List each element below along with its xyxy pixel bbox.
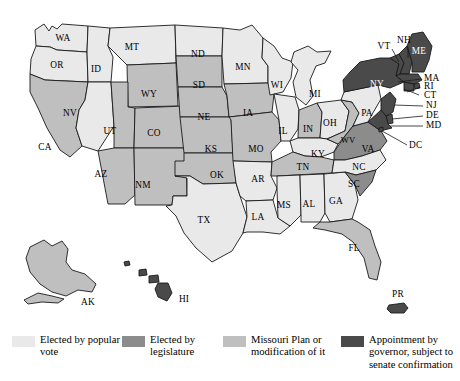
label-MN: MN xyxy=(235,62,250,72)
label-AR: AR xyxy=(251,174,265,184)
label-WI: WI xyxy=(271,80,283,90)
label-IA: IA xyxy=(243,108,253,118)
state-CO[interactable] xyxy=(134,106,186,148)
label-SD: SD xyxy=(193,80,205,90)
label-AZ: AZ xyxy=(95,169,108,179)
legend-label-popular-vote: Elected by popular vote xyxy=(40,334,120,359)
label-OH: OH xyxy=(323,118,337,128)
label-CA: CA xyxy=(38,142,51,152)
label-TN: TN xyxy=(297,162,310,172)
state-FL[interactable] xyxy=(313,219,381,280)
legend-item-legislature[interactable]: Elected by legislature xyxy=(122,334,220,359)
label-KS: KS xyxy=(205,144,217,154)
legend-swatch-missouri-plan xyxy=(223,336,246,347)
legend-label-governor-appointment: Appointment by governor, subject to sena… xyxy=(369,334,457,371)
label-NH: NH xyxy=(397,35,411,45)
label-DE: DE xyxy=(426,110,439,120)
label-MD: MD xyxy=(426,120,441,130)
state-HI-2[interactable] xyxy=(139,269,147,276)
label-MO: MO xyxy=(248,144,263,154)
legend-swatch-popular-vote xyxy=(12,336,35,347)
label-ID: ID xyxy=(91,64,101,74)
label-NY: NY xyxy=(370,79,384,89)
state-HI-4[interactable] xyxy=(155,283,172,301)
label-VT: VT xyxy=(378,41,391,51)
label-GA: GA xyxy=(329,196,343,206)
label-KY: KY xyxy=(311,149,325,159)
label-FL: FL xyxy=(348,243,359,253)
label-CO: CO xyxy=(147,128,160,138)
legend-item-popular-vote[interactable]: Elected by popular vote xyxy=(12,334,120,359)
label-WA: WA xyxy=(56,33,71,43)
state-AK[interactable] xyxy=(26,240,96,296)
label-CT: CT xyxy=(424,90,436,100)
label-ND: ND xyxy=(191,49,205,59)
state-PR[interactable] xyxy=(387,303,408,313)
label-TX: TX xyxy=(198,215,211,225)
label-HI: HI xyxy=(179,294,189,304)
legend-item-missouri-plan[interactable]: Missouri Plan or modification of it xyxy=(223,334,339,359)
label-MS: MS xyxy=(277,200,291,210)
state-MO[interactable] xyxy=(229,112,281,162)
state-MT[interactable] xyxy=(108,25,176,65)
label-WV: WV xyxy=(341,135,356,145)
label-UT: UT xyxy=(104,126,117,136)
state-HI-3[interactable] xyxy=(149,275,159,283)
label-MI: MI xyxy=(309,89,321,99)
legend-label-legislature: Elected by legislature xyxy=(150,334,220,359)
label-AK: AK xyxy=(81,297,95,307)
label-IN: IN xyxy=(303,124,313,134)
label-NC: NC xyxy=(352,162,365,172)
state-HI-1[interactable] xyxy=(124,261,130,266)
label-MT: MT xyxy=(125,42,139,52)
label-AL: AL xyxy=(303,199,316,209)
label-SC: SC xyxy=(348,179,360,189)
label-IL: IL xyxy=(278,126,287,136)
us-map-svg: WA OR ID MT ND MN WI MI NV CA UT WY CO S… xyxy=(0,0,460,330)
leader-DE xyxy=(392,116,423,119)
judicial-selection-map-figure: WA OR ID MT ND MN WI MI NV CA UT WY CO S… xyxy=(0,0,460,381)
state-MN[interactable] xyxy=(222,25,268,84)
state-AK-tail[interactable] xyxy=(24,293,64,304)
map-legend: Elected by popular vote Elected by legis… xyxy=(0,330,460,381)
label-PR: PR xyxy=(392,289,404,299)
label-OR: OR xyxy=(50,60,64,70)
legend-label-missouri-plan: Missouri Plan or modification of it xyxy=(251,334,339,359)
label-VA: VA xyxy=(362,144,375,154)
label-LA: LA xyxy=(252,212,265,222)
legend-swatch-legislature xyxy=(122,336,145,347)
label-PA: PA xyxy=(361,108,373,118)
legend-item-governor-appointment[interactable]: Appointment by governor, subject to sena… xyxy=(341,334,457,371)
label-WY: WY xyxy=(141,89,157,99)
label-NV: NV xyxy=(63,108,77,118)
legend-swatch-governor-appointment xyxy=(341,336,364,347)
label-DC: DC xyxy=(409,140,422,150)
label-ME: ME xyxy=(412,46,426,56)
leader-NJ xyxy=(394,105,423,106)
state-AL[interactable] xyxy=(300,174,325,222)
state-WY[interactable] xyxy=(127,63,178,107)
label-NE: NE xyxy=(198,112,211,122)
label-NM: NM xyxy=(135,180,150,190)
label-OK: OK xyxy=(210,170,224,180)
label-NJ: NJ xyxy=(426,100,437,110)
